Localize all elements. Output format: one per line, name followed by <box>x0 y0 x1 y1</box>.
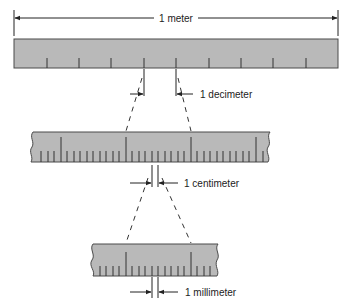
centimeter-callout: 1 centimeter <box>126 165 240 243</box>
millimeter-callout: 1 millimeter <box>130 277 237 298</box>
decimeter-ruler <box>31 132 270 162</box>
meter-dimension: 1 meter <box>14 10 338 36</box>
centimeter-ruler <box>91 244 218 276</box>
centimeter-label: 1 centimeter <box>184 178 240 189</box>
millimeter-ticks <box>41 151 263 162</box>
decimeter-callout: 1 decimeter <box>126 69 253 131</box>
decimeter-label: 1 decimeter <box>200 89 253 100</box>
millimeter-label: 1 millimeter <box>185 287 237 298</box>
meter-ruler <box>14 39 338 68</box>
metric-scale-diagram: 1 meter 1 decimeter <box>0 0 351 307</box>
meter-label: 1 meter <box>159 13 194 24</box>
